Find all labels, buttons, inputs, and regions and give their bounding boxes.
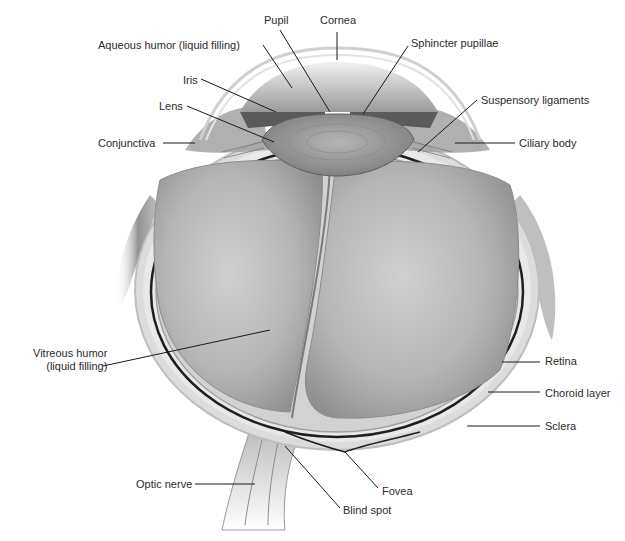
label-sclera: Sclera xyxy=(545,420,576,433)
label-vitreous-humor: Vitreous humor(liquid filling) xyxy=(33,347,107,373)
label-suspensory-ligaments: Suspensory ligaments xyxy=(481,94,589,107)
aqueous-humor-shape xyxy=(240,62,438,112)
label-cornea: Cornea xyxy=(320,14,356,27)
label-ciliary-body: Ciliary body xyxy=(519,137,576,150)
label-blind-spot: Blind spot xyxy=(343,504,391,517)
eye-anatomy-diagram: PupilCorneaAqueous humor (liquid filling… xyxy=(0,0,625,541)
label-choroid-layer: Choroid layer xyxy=(545,387,610,400)
label-sphincter-pupillae: Sphincter pupillae xyxy=(411,37,498,50)
vitreous-humor-shape xyxy=(154,160,519,418)
eye-illustration xyxy=(0,0,625,541)
label-conjunctiva: Conjunctiva xyxy=(98,137,155,150)
label-pupil: Pupil xyxy=(264,14,288,27)
leader-line-blind-spot xyxy=(285,446,340,508)
label-retina: Retina xyxy=(545,355,577,368)
label-lens: Lens xyxy=(159,100,183,113)
label-optic-nerve: Optic nerve xyxy=(136,478,192,491)
leader-line-fovea xyxy=(345,452,378,488)
label-fovea: Fovea xyxy=(382,485,413,498)
label-iris: Iris xyxy=(183,74,198,87)
label-aqueous-humor: Aqueous humor (liquid filling) xyxy=(98,39,240,52)
